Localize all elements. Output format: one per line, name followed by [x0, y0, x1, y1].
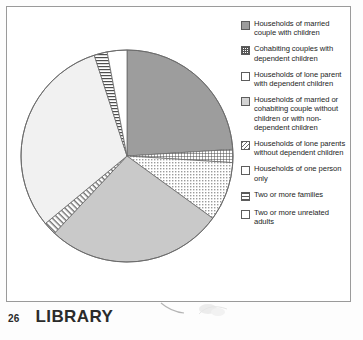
solid-dark-swatch-icon: [241, 21, 250, 30]
legend-item-label: Households of one person only: [254, 164, 347, 182]
legend-item-label: Cohabiting couples with dependent childr…: [254, 44, 347, 62]
legend-item-label: Two or more families: [254, 190, 323, 199]
legend-item-label: Households of lone parents without depen…: [254, 139, 347, 157]
diagonal-hatch-swatch-icon: [241, 141, 250, 150]
horizontal-stripe-swatch-icon: [241, 192, 250, 201]
legend-item-cohabiting-dependent-children[interactable]: Cohabiting couples with dependent childr…: [241, 44, 347, 62]
legend-item-lone-parent-dependent-children[interactable]: Households of lone parent with dependent…: [241, 70, 347, 88]
pie-slice[interactable]: [127, 50, 233, 156]
dotted-swatch-icon: [241, 72, 250, 81]
section-title: LIBRARY: [36, 307, 114, 327]
pie-slice-group: [21, 50, 233, 262]
page-canvas: Households of married couple with childr…: [0, 0, 363, 340]
solid-light-swatch-icon: [241, 97, 250, 106]
legend-item-label: Households of married couple with childr…: [254, 19, 347, 37]
scan-smudge-icon: [196, 300, 230, 320]
page-number: 26: [8, 313, 20, 324]
crosshatch-swatch-icon: [241, 46, 250, 55]
legend-item-label: Households of lone parent with dependent…: [254, 70, 347, 88]
pen-stroke-mark-icon: [160, 300, 186, 316]
legend-item-couple-without-children[interactable]: Households of married or cohabiting coup…: [241, 95, 347, 132]
legend-item-married-couple-with-children[interactable]: Households of married couple with childr…: [241, 19, 347, 37]
chart-legend: Households of married couple with childr…: [241, 19, 347, 226]
legend-item-one-person-only[interactable]: Households of one person only: [241, 164, 347, 182]
legend-item-two-or-more-families[interactable]: Two or more families: [241, 190, 347, 201]
legend-item-label: Households of married or cohabiting coup…: [254, 95, 347, 132]
page-footer: 26 LIBRARY: [8, 307, 113, 327]
figure-frame: Households of married couple with childr…: [6, 6, 351, 302]
pie-chart: [19, 48, 235, 264]
legend-item-label: Two or more unrelated adults: [254, 208, 347, 226]
empty-swatch-icon: [241, 166, 250, 175]
empty-swatch-icon: [241, 210, 250, 219]
legend-item-lone-parents-without-dependent-children[interactable]: Households of lone parents without depen…: [241, 139, 347, 157]
pie-chart-svg: [19, 48, 235, 264]
legend-item-two-or-more-unrelated-adults[interactable]: Two or more unrelated adults: [241, 208, 347, 226]
